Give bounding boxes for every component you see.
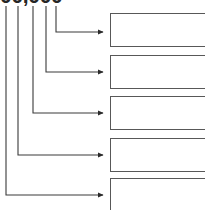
- node-box-3[interactable]: [110, 96, 205, 130]
- diagram-canvas: 00,000: [0, 0, 205, 210]
- leader-line-group-5: [6, 6, 103, 195]
- leader-line-5: [6, 6, 103, 195]
- node-box-1[interactable]: [110, 13, 205, 47]
- leader-line-1: [56, 6, 103, 32]
- leader-line-group-4: [18, 6, 103, 155]
- leader-line-2: [46, 6, 103, 72]
- node-box-5[interactable]: [110, 178, 205, 210]
- node-box-5-label: [111, 179, 205, 185]
- node-box-2[interactable]: [110, 55, 205, 89]
- leader-line-group-3: [33, 6, 103, 113]
- leader-line-3: [33, 6, 103, 113]
- node-box-4-label: [111, 139, 205, 145]
- leader-line-4: [18, 6, 103, 155]
- leader-line-group-2: [46, 6, 103, 72]
- node-box-1-label: [111, 14, 205, 20]
- node-box-4[interactable]: [110, 138, 205, 172]
- node-box-3-label: [111, 97, 205, 103]
- leader-line-group-1: [56, 6, 103, 32]
- node-box-2-label: [111, 56, 205, 62]
